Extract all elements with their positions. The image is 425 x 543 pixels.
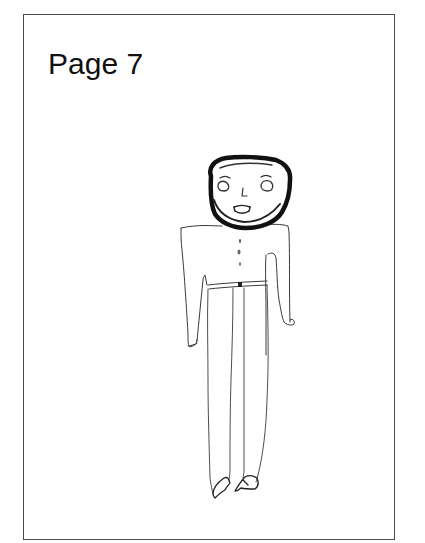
mouth [234, 206, 250, 214]
right-eye [261, 181, 273, 191]
eyes [218, 176, 273, 192]
belt [208, 281, 267, 289]
person-drawing [0, 0, 425, 543]
left-leg [208, 288, 233, 494]
nose [242, 188, 247, 196]
torso [181, 224, 290, 346]
right-shoe [235, 476, 258, 491]
buttons [238, 239, 242, 266]
left-shoe [213, 477, 230, 498]
right-leg [243, 285, 268, 482]
left-arm [197, 275, 207, 341]
head [210, 157, 290, 228]
left-eye [218, 181, 229, 191]
